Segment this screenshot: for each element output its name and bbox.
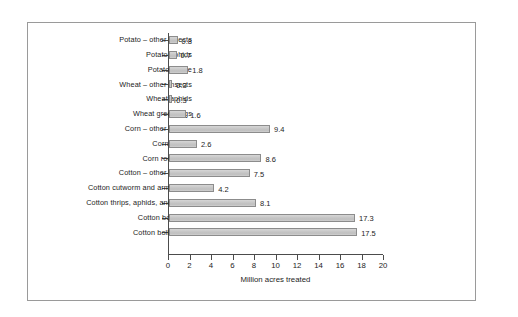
x-tick-label: 4	[199, 261, 223, 270]
x-tick	[340, 255, 341, 260]
x-tick-label: 20	[371, 261, 395, 270]
bar	[169, 36, 178, 44]
x-tick-label: 6	[221, 261, 245, 270]
bar	[169, 110, 186, 118]
x-tick	[233, 255, 234, 260]
x-axis-title: Million acres treated	[168, 275, 383, 284]
x-tick	[383, 255, 384, 260]
bar	[169, 184, 214, 192]
bar-value-label: 8.6	[265, 155, 275, 164]
bar	[169, 66, 188, 74]
bar-value-label: 17.3	[359, 214, 374, 223]
category-label: Cotton cutworm and armyworm	[0, 184, 192, 192]
bar-value-label: 0.3	[176, 81, 186, 90]
chart-frame: Million acres treated 02468101214161820P…	[27, 22, 476, 301]
x-tick-label: 2	[178, 261, 202, 270]
bar	[169, 169, 250, 177]
bar-value-label: 8.1	[260, 199, 270, 208]
category-label: Cotton bollworm	[0, 214, 192, 222]
bar	[169, 199, 256, 207]
bar-value-label: 4.2	[218, 185, 228, 194]
x-tick-label: 10	[264, 261, 288, 270]
x-tick-label: 0	[156, 261, 180, 270]
bar	[169, 154, 261, 162]
x-tick	[211, 255, 212, 260]
bar-value-label: 1.8	[192, 66, 202, 75]
x-tick	[168, 255, 169, 260]
bar	[169, 51, 177, 59]
bar	[169, 125, 270, 133]
x-tick	[254, 255, 255, 260]
category-label: Potato aphids	[0, 51, 192, 59]
x-tick	[319, 255, 320, 260]
x-tick	[276, 255, 277, 260]
bar	[169, 214, 355, 222]
category-label: Cotton boll weevil	[0, 229, 192, 237]
bar-value-label: 7.5	[254, 170, 264, 179]
category-label: Corn borers	[0, 140, 192, 148]
category-label: Wheat greenbugs	[0, 110, 192, 118]
bar	[169, 140, 197, 148]
category-label: Potato – other insects	[0, 36, 192, 44]
bar	[169, 228, 357, 236]
bar-value-label: 9.4	[274, 125, 284, 134]
x-tick-label: 16	[328, 261, 352, 270]
bar-value-label: 2.6	[201, 140, 211, 149]
bar	[169, 95, 172, 103]
bar-value-label: 0.8	[182, 37, 192, 46]
plot-area: Million acres treated 02468101214161820P…	[28, 23, 477, 302]
bar	[169, 80, 172, 88]
category-label: Corn rootworm	[0, 155, 192, 163]
x-tick	[362, 255, 363, 260]
bar-value-label: 0.3	[176, 96, 186, 105]
category-label: Corn – other insects	[0, 125, 192, 133]
category-label: Cotton thrips, aphids, and mites	[0, 199, 192, 207]
bar-value-label: 1.6	[190, 111, 200, 120]
bar-value-label: 0.7	[181, 51, 191, 60]
x-tick-label: 12	[285, 261, 309, 270]
x-tick-label: 8	[242, 261, 266, 270]
category-label: Wheat aphids	[0, 95, 192, 103]
category-label: Cotton – other insects	[0, 169, 192, 177]
category-label: Potato beetle	[0, 66, 192, 74]
x-tick	[190, 255, 191, 260]
x-tick	[297, 255, 298, 260]
x-tick-label: 14	[307, 261, 331, 270]
x-tick-label: 18	[350, 261, 374, 270]
bar-value-label: 17.5	[361, 229, 376, 238]
category-label: Wheat – other insects	[0, 81, 192, 89]
